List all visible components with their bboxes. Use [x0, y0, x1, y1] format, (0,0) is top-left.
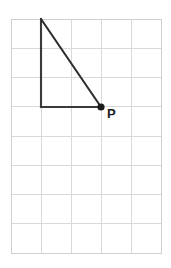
figure-background: [0, 0, 171, 268]
coordinate-grid-figure: P: [0, 0, 171, 268]
vertex-labels: P: [107, 106, 116, 121]
figure-container: P: [0, 0, 171, 268]
vertex-markers: [97, 103, 104, 110]
point-p-label: P: [107, 106, 116, 121]
point-p-dot: [97, 103, 104, 110]
